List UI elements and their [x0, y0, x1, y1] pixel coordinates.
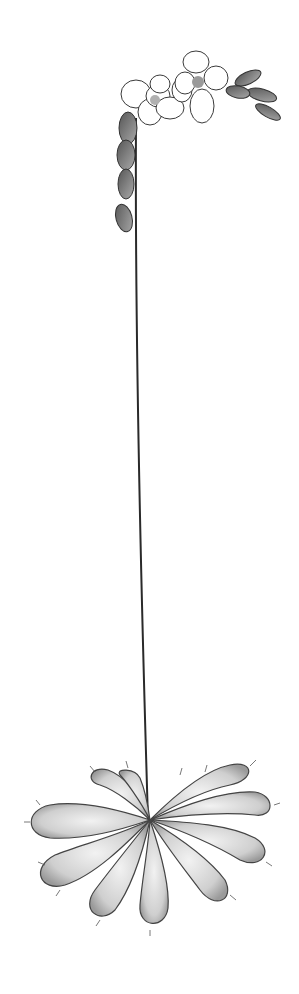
basal-rosette [31, 764, 270, 923]
bud-column [113, 112, 137, 234]
stem [136, 118, 148, 820]
terminal-buds [225, 67, 282, 124]
botanical-drawing [0, 0, 299, 994]
flowers [121, 51, 228, 125]
